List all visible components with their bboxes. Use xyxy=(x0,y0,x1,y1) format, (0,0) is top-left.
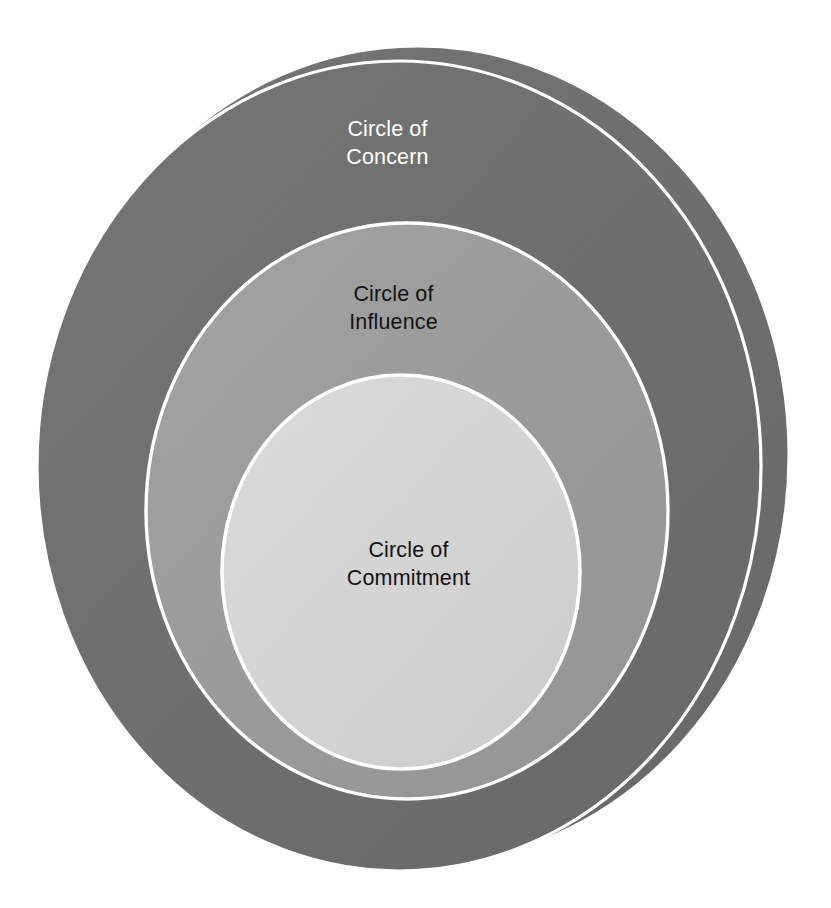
circle-of-concern-label: Circle of Concern xyxy=(0,116,803,172)
circles-diagram: Circle of Concern Circle of Influence Ci… xyxy=(0,0,831,908)
circle-of-commitment-label: Circle of Commitment xyxy=(0,537,824,593)
circle-of-influence-label: Circle of Influence xyxy=(0,281,809,337)
